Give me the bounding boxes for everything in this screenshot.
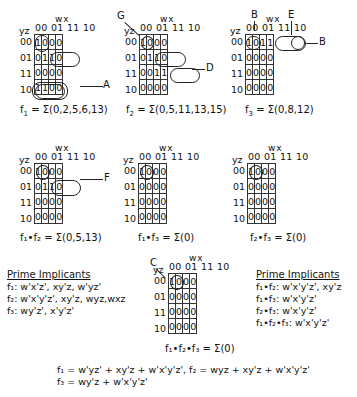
kmap-grid: 1000000000000000 bbox=[168, 273, 197, 334]
kmap-cell: 0 bbox=[147, 35, 154, 50]
kmap-cell: 1 bbox=[147, 50, 154, 65]
kmap-cell: 0 bbox=[146, 194, 153, 209]
prime-left-line: f₃: wy'z', x'y'z' bbox=[7, 305, 126, 317]
kmap-cell: 0 bbox=[246, 50, 253, 65]
kmap-cell: 0 bbox=[169, 289, 176, 304]
row-label: 01 bbox=[154, 291, 166, 302]
kmap-cell: 0 bbox=[140, 65, 147, 80]
kmap-cell: 0 bbox=[267, 50, 274, 65]
col-headers: 00 01 11 10 bbox=[140, 22, 201, 33]
row-label: 10 bbox=[20, 213, 32, 224]
row-label: 01 bbox=[124, 181, 136, 192]
kmap-cell: 0 bbox=[176, 274, 183, 289]
kmap-cell: 0 bbox=[183, 319, 190, 334]
kmap-cell: 0 bbox=[56, 209, 63, 224]
kmap-grid: 1000011000110000 bbox=[139, 34, 168, 95]
kmap-cell: 0 bbox=[139, 194, 146, 209]
grouping-loop bbox=[170, 68, 200, 83]
kmap-cell: 0 bbox=[140, 50, 147, 65]
row-label: 10 bbox=[233, 213, 245, 224]
row-label: 00 bbox=[233, 165, 245, 176]
final-equations: f₁ = w'yz' + xy'z + w'x'y'z', f₂ = wyz +… bbox=[57, 364, 310, 388]
kmap-cell: 0 bbox=[160, 194, 167, 209]
kmap-cell: 0 bbox=[49, 164, 56, 179]
kmap-cell: 0 bbox=[49, 65, 56, 80]
kmap-cell: 0 bbox=[35, 194, 42, 209]
prime-left-line: f₂: w'x'y'z', xy'z, wyz,wxz bbox=[7, 293, 126, 305]
kmap-cell: 0 bbox=[49, 80, 56, 95]
label-F: F bbox=[104, 172, 110, 183]
kmap-cell: 0 bbox=[267, 65, 274, 80]
row-label: 11 bbox=[125, 68, 137, 79]
row-label: 10 bbox=[20, 84, 32, 95]
kmap-cell: 0 bbox=[56, 35, 63, 50]
kmap-cell: 0 bbox=[169, 304, 176, 319]
kmap-cell: 1 bbox=[260, 35, 267, 50]
row-label: 11 bbox=[20, 197, 32, 208]
col-headers: 00 01 11 10 bbox=[35, 22, 96, 33]
kmap-cell: 0 bbox=[154, 80, 161, 95]
prime-implicants-left: Prime Implicants f₁: w'x'z', xy'z, w'yz'… bbox=[7, 269, 126, 317]
grouping-loop bbox=[275, 36, 306, 51]
kmap-cell: 0 bbox=[176, 304, 183, 319]
prime-right-line: f₁•f₂: w'x'y'z', xy'z bbox=[256, 281, 341, 293]
kmap-caption: f₂•f₃ = Σ(0) bbox=[250, 232, 306, 243]
kmap-cell: 0 bbox=[190, 319, 197, 334]
row-label: 00 bbox=[20, 165, 32, 176]
kmap-cell: 0 bbox=[269, 179, 276, 194]
kmap-caption: f3 = Σ(0,8,12) bbox=[245, 104, 314, 118]
kmap-cell: 0 bbox=[49, 209, 56, 224]
kmap-cell: 0 bbox=[260, 80, 267, 95]
kmap-caption: f2 = Σ(0,5,11,13,15) bbox=[126, 104, 226, 118]
kmap-cell: 0 bbox=[42, 35, 49, 50]
col-headers: 00 01 11 10 bbox=[139, 151, 200, 162]
kmap-cell: 0 bbox=[253, 80, 260, 95]
kmap-cell: 0 bbox=[154, 35, 161, 50]
kmap-cell: 0 bbox=[183, 274, 190, 289]
kmap-cell: 0 bbox=[160, 179, 167, 194]
kmap-cell: 0 bbox=[255, 179, 262, 194]
pointer-D bbox=[192, 69, 205, 70]
kmap-cell: 0 bbox=[269, 164, 276, 179]
row-label: 01 bbox=[233, 181, 245, 192]
kmap-cell: 0 bbox=[56, 80, 63, 95]
kmap-cell: 0 bbox=[42, 65, 49, 80]
kmap-cell: 0 bbox=[35, 209, 42, 224]
row-label: 00 bbox=[124, 165, 136, 176]
kmap-cell: 0 bbox=[49, 35, 56, 50]
kmap-caption: f₁•f₃ = Σ(0) bbox=[138, 232, 194, 243]
row-label: 11 bbox=[233, 197, 245, 208]
row-var-label: yz bbox=[232, 154, 243, 165]
label-G: G bbox=[117, 10, 125, 21]
kmap-cell: 1 bbox=[248, 164, 255, 179]
row-var-label: yz bbox=[230, 25, 241, 36]
label-D: D bbox=[206, 62, 214, 73]
row-label: 01 bbox=[20, 52, 32, 63]
kmap-cell: 1 bbox=[35, 80, 42, 95]
col-headers: 00 01 11 10 bbox=[246, 22, 307, 33]
kmap-cell: 0 bbox=[262, 164, 269, 179]
kmap-cell: 0 bbox=[255, 194, 262, 209]
col-headers: 00 01 11 10 bbox=[35, 151, 96, 162]
row-label: 10 bbox=[231, 84, 243, 95]
kmap-cell: 0 bbox=[183, 289, 190, 304]
kmap-cell: 1 bbox=[139, 164, 146, 179]
prime-right-line: f₂•f₃: w'x'y'z' bbox=[256, 305, 341, 317]
kmap-cell: 1 bbox=[42, 179, 49, 194]
kmap-caption: f₁•f₂ = Σ(0,5,13) bbox=[20, 232, 102, 243]
kmap-cell: 0 bbox=[262, 194, 269, 209]
kmap-cell: 0 bbox=[146, 179, 153, 194]
kmap-cell: 0 bbox=[35, 50, 42, 65]
kmap-cell: 0 bbox=[267, 80, 274, 95]
kmap-cell: 0 bbox=[56, 179, 63, 194]
pointer-A bbox=[80, 86, 103, 87]
kmap-cell: 0 bbox=[269, 209, 276, 224]
kmap-cell: 0 bbox=[160, 209, 167, 224]
prime-right-line: f₁•f₂•f₃: w'x'y'z' bbox=[256, 317, 341, 329]
kmap-cell: 0 bbox=[56, 194, 63, 209]
kmap-cell: 0 bbox=[160, 164, 167, 179]
kmap-cell: 0 bbox=[253, 65, 260, 80]
row-var-label: yz bbox=[123, 154, 134, 165]
kmap-cell: 0 bbox=[260, 50, 267, 65]
kmap-cell: 0 bbox=[260, 65, 267, 80]
